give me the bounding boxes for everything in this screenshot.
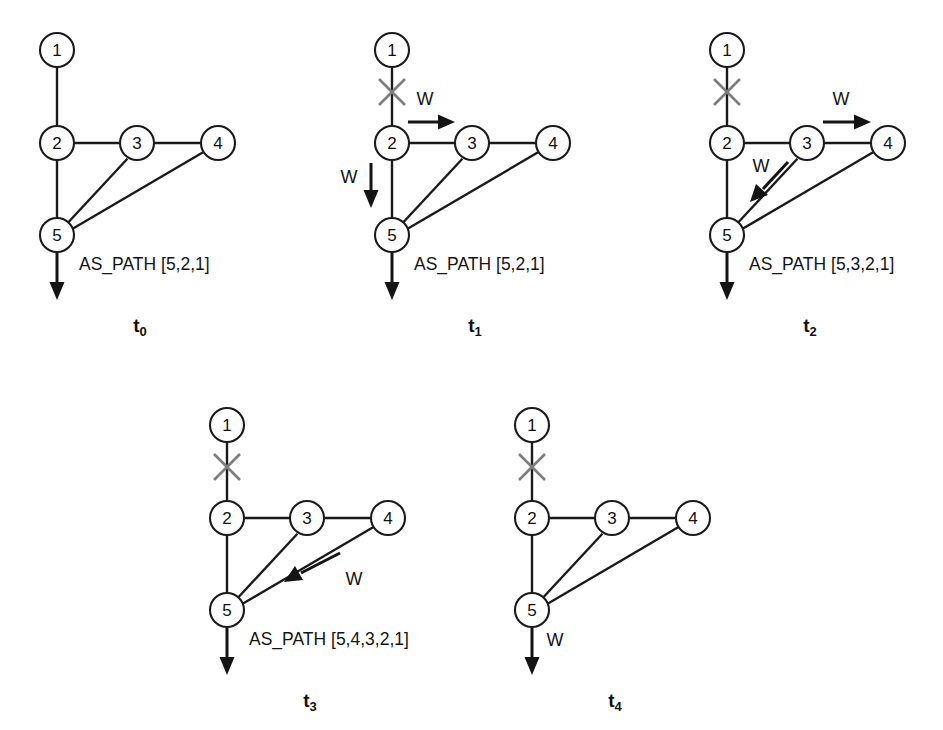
node-2-label: 2 — [222, 509, 231, 528]
withdrawal-arrow-3-4: W — [823, 89, 871, 130]
node-1-label: 1 — [527, 416, 536, 435]
node-5-label: 5 — [722, 226, 731, 245]
node-3-label: 3 — [302, 509, 311, 528]
node-3: 3 — [595, 501, 629, 535]
withdrawal-label-4-5: W — [346, 569, 363, 589]
node-5-label: 5 — [387, 226, 396, 245]
node-3-label: 3 — [132, 134, 141, 153]
withdrawal-arrow-4-5: W — [284, 553, 363, 589]
node-4-label: 4 — [548, 134, 557, 153]
node-4-label: 4 — [383, 509, 392, 528]
time-label-t2: t2 — [803, 315, 817, 339]
node-5-label: 5 — [52, 226, 61, 245]
panel-t4: 1 2 3 4 5 W t4 — [475, 375, 805, 720]
node-1: 1 — [515, 408, 549, 442]
egress-arrow — [385, 253, 400, 300]
node-2-label: 2 — [722, 134, 731, 153]
as-path-label: AS_PATH [5,2,1] — [414, 254, 545, 275]
withdrawal-arrow-2-3: W — [408, 89, 455, 130]
node-1: 1 — [210, 408, 244, 442]
node-2: 2 — [40, 126, 74, 160]
panel-t2: W W 1 2 3 4 — [670, 0, 943, 340]
egress-arrow — [525, 628, 540, 675]
edge-4-5 — [408, 152, 538, 229]
withdrawal-label-3-4: W — [833, 89, 850, 109]
egress-withdrawal-label: W — [547, 630, 564, 650]
node-4: 4 — [201, 126, 235, 160]
withdrawal-label-3-5: W — [753, 156, 770, 176]
node-1: 1 — [710, 33, 744, 67]
node-5-label: 5 — [527, 601, 536, 620]
node-3: 3 — [120, 126, 154, 160]
as-path-label: AS_PATH [5,2,1] — [79, 254, 210, 275]
node-1-label: 1 — [222, 416, 231, 435]
node-4-label: 4 — [688, 509, 697, 528]
edge-4-5 — [73, 152, 204, 229]
node-4-label: 4 — [883, 134, 892, 153]
egress-arrow — [220, 628, 235, 675]
node-4: 4 — [371, 501, 405, 535]
as-path-label: AS_PATH [5,3,2,1] — [749, 254, 894, 275]
node-5: 5 — [710, 218, 744, 252]
node-2: 2 — [375, 126, 409, 160]
node-5-label: 5 — [222, 601, 231, 620]
node-4-label: 4 — [213, 134, 222, 153]
panel-t3: W 1 2 3 4 5 — [170, 375, 500, 720]
egress-arrow — [50, 253, 65, 300]
edge-4-5 — [243, 527, 374, 604]
egress-arrow — [720, 253, 735, 300]
time-label-t3: t3 — [303, 690, 317, 714]
time-label-t1: t1 — [468, 315, 482, 339]
node-2: 2 — [515, 501, 549, 535]
node-4: 4 — [871, 126, 905, 160]
withdrawal-label-2-5: W — [341, 167, 358, 187]
node-1-label: 1 — [387, 41, 396, 60]
withdrawal-label-2-3: W — [417, 89, 434, 109]
node-3-label: 3 — [607, 509, 616, 528]
node-2-label: 2 — [52, 134, 61, 153]
node-3: 3 — [455, 126, 489, 160]
edge-4-5 — [548, 527, 679, 604]
time-label-t0: t0 — [133, 315, 147, 339]
time-label-t4: t4 — [608, 690, 622, 714]
node-1-label: 1 — [722, 41, 731, 60]
node-1: 1 — [375, 33, 409, 67]
node-3-label: 3 — [467, 134, 476, 153]
node-2-label: 2 — [387, 134, 396, 153]
node-3-label: 3 — [802, 134, 811, 153]
node-5: 5 — [40, 218, 74, 252]
as-path-label: AS_PATH [5,4,3,2,1] — [249, 629, 409, 650]
bgp-path-exploration-figure: 1 2 3 4 5 AS_PATH [5,2,1 — [0, 0, 943, 730]
node-5: 5 — [515, 593, 549, 627]
panel-t0: 1 2 3 4 5 AS_PATH [5,2,1 — [0, 0, 310, 340]
node-3: 3 — [290, 501, 324, 535]
node-2: 2 — [710, 126, 744, 160]
panel-t1: W W 1 2 3 4 — [335, 0, 645, 340]
node-2-label: 2 — [527, 509, 536, 528]
withdrawal-arrow-3-5: W — [750, 156, 788, 202]
withdrawal-arrow-2-5: W — [341, 163, 379, 208]
node-1-label: 1 — [52, 41, 61, 60]
node-5: 5 — [210, 593, 244, 627]
node-5: 5 — [375, 218, 409, 252]
node-3: 3 — [790, 126, 824, 160]
node-2: 2 — [210, 501, 244, 535]
node-1: 1 — [40, 33, 74, 67]
node-4: 4 — [536, 126, 570, 160]
node-4: 4 — [676, 501, 710, 535]
